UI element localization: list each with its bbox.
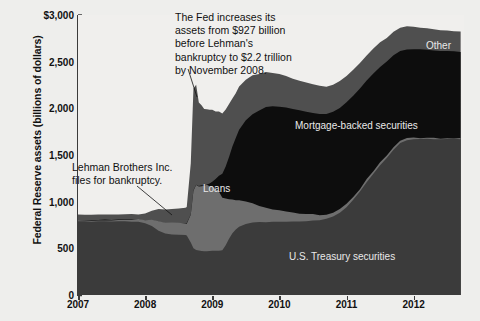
x-axis-tick-label: 2009	[201, 299, 223, 310]
y-axis-tick-label: 1,000	[4, 196, 74, 207]
x-axis-tick-label: 2010	[268, 299, 290, 310]
y-axis-tick-label: 0	[4, 290, 74, 301]
y-axis-tick-label: 1,500	[4, 150, 74, 161]
x-axis-tick-mark	[78, 296, 80, 300]
y-axis-tick-label: 500	[4, 243, 74, 254]
series-label-loans: Loans	[203, 183, 230, 194]
x-axis-tick-mark	[212, 296, 214, 300]
series-label-other: Other	[426, 40, 451, 51]
x-axis-tick-label: 2012	[403, 299, 425, 310]
y-axis-tick-label: $3,000	[4, 10, 74, 21]
annotation-fed-assets-note: The Fed increases its assets from $927 b…	[175, 11, 292, 77]
x-axis-tick-label: 2008	[134, 299, 156, 310]
x-axis-tick-mark	[279, 296, 281, 300]
y-axis-title: Federal Reserve assets (billions of doll…	[31, 10, 43, 270]
annotation-lehman-note: Lehman Brothers Inc. files for bankruptc…	[72, 161, 172, 187]
x-axis-tick-mark	[414, 296, 416, 300]
x-axis-tick-label: 2007	[67, 299, 89, 310]
x-axis-tick-label: 2011	[336, 299, 358, 310]
y-axis-tick-label: 2,500	[4, 56, 74, 67]
chart-screenshot: Federal Reserve assets (billions of doll…	[0, 0, 480, 321]
x-axis-tick-mark	[347, 296, 349, 300]
series-label-mortgage-backed-securities: Mortgage-backed securities	[295, 120, 418, 131]
series-label-u-s-treasury-securities: U.S. Treasury securities	[289, 251, 395, 262]
x-axis-tick-mark	[145, 296, 147, 300]
y-axis-tick-label: 2,000	[4, 103, 74, 114]
